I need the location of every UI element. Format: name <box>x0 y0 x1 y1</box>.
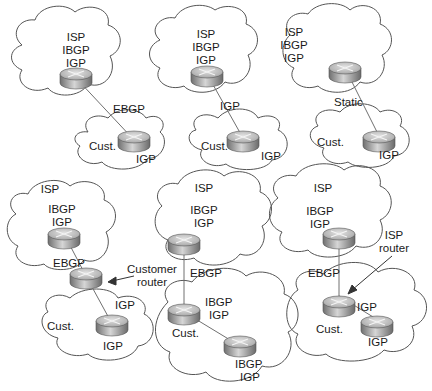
router-icon <box>70 268 102 289</box>
igp-label: IGP <box>56 57 96 70</box>
cust-label: Cust. <box>316 323 343 336</box>
router1-igp-label: IGP <box>209 309 229 322</box>
cust-label: Cust. <box>317 136 344 149</box>
cust-label: Cust. <box>201 140 228 153</box>
router-icon <box>48 228 80 249</box>
isp-label: ISP <box>303 182 343 195</box>
router-igp-label: IGP <box>379 149 399 162</box>
cust-label: Cust. <box>47 320 74 333</box>
router-icon <box>329 62 361 83</box>
customer-router-annotation: Customer <box>122 263 182 276</box>
ibgp-label: IBGP <box>56 44 96 57</box>
router-icon <box>191 66 223 87</box>
router2-ibgp-label: IBGP <box>235 358 262 371</box>
router-igp-label: IGP <box>261 150 281 163</box>
ibgp-label: IBGP <box>184 204 224 217</box>
ibgp-label: IBGP <box>300 205 340 218</box>
router-icon <box>96 315 128 336</box>
router2-igp-label: IGP <box>240 371 260 384</box>
link-label: EBGP <box>53 257 85 270</box>
router-igp-label: IGP <box>136 153 156 166</box>
link-label: EBGP <box>308 267 340 280</box>
cust-label: Cust. <box>89 140 116 153</box>
router-igp-label: IGP <box>103 340 123 353</box>
igp-label: IGP <box>42 216 82 229</box>
ibgp-label: IBGP <box>274 39 314 52</box>
router-icon <box>323 228 355 249</box>
router-icon <box>168 304 200 325</box>
igp-label: IGP <box>300 218 340 231</box>
link-label: Static <box>334 96 363 109</box>
link-label: EBGP <box>190 267 222 280</box>
router-icon <box>227 131 259 152</box>
router2-igp-label: IGP <box>368 336 388 349</box>
router1-igp-label: IGP <box>357 301 377 314</box>
isp-label: ISP <box>30 183 70 196</box>
igp-label: IGP <box>184 217 224 230</box>
link-label: EBGP <box>113 103 145 116</box>
igp-label: IGP <box>186 54 226 67</box>
isp-label: ISP <box>186 28 226 41</box>
ibgp-label: IBGP <box>42 203 82 216</box>
customer-router-annotation: router <box>122 276 182 289</box>
isp-label: ISP <box>274 26 314 39</box>
router-icon <box>168 234 200 255</box>
router-icon <box>224 336 256 357</box>
ibgp-label: IBGP <box>186 41 226 54</box>
isp-router-annotation: router <box>374 242 414 255</box>
isp-label: ISP <box>56 31 96 44</box>
link-label: IGP <box>220 100 240 113</box>
router-icon <box>60 68 92 89</box>
isp-label: ISP <box>184 182 224 195</box>
link2-label: IGP <box>115 299 135 312</box>
igp-label: IGP <box>274 52 314 65</box>
router-icon <box>323 296 355 317</box>
cust-label: Cust. <box>172 327 199 340</box>
isp-router-annotation: ISP <box>374 229 414 242</box>
router1-ibgp-label: IBGP <box>205 296 232 309</box>
router-icon <box>361 316 393 337</box>
router-icon <box>118 131 150 152</box>
